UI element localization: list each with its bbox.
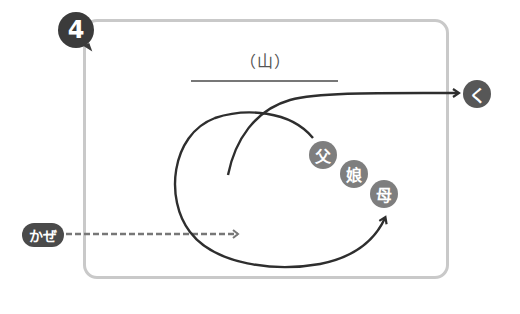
node-father: 父 [309,141,337,169]
exit-path [228,93,458,175]
start-badge: かぜ [22,223,64,247]
loop-path [175,113,385,268]
node-mother: 母 [370,180,398,208]
path-lines [0,0,520,314]
end-badge: く [463,80,491,108]
node-daughter: 娘 [340,160,368,188]
